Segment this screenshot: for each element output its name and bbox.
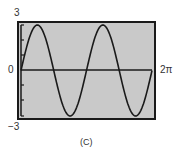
y-max-label: 3 <box>14 8 20 18</box>
x-max-label: 2π <box>160 65 172 75</box>
y-zero-label: 0 <box>8 65 14 75</box>
figure-caption: (C) <box>80 137 93 147</box>
plot-svg <box>0 0 182 156</box>
y-min-label: −3 <box>8 122 19 132</box>
